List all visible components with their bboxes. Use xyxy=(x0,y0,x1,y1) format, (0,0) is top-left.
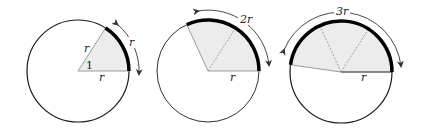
panel-three-radians: 3r r xyxy=(284,5,401,123)
arc-label: 2r xyxy=(239,13,253,26)
arc-label: r xyxy=(129,36,135,49)
panel-two-radians: 2r r xyxy=(157,10,269,122)
radius-label-base: r xyxy=(230,71,236,84)
radius-label-base: r xyxy=(99,71,105,84)
sector-fill xyxy=(187,20,259,71)
radius-label-base: r xyxy=(361,71,367,84)
arc-label: 3r xyxy=(336,5,349,18)
radius-label-side: r xyxy=(84,42,90,55)
sector-fill xyxy=(291,21,392,72)
panel-one-radian: r r r 1 xyxy=(27,20,139,122)
angle-label: 1 xyxy=(86,59,93,72)
radian-diagram: r r r 1 2r r 3r r xyxy=(0,0,423,130)
